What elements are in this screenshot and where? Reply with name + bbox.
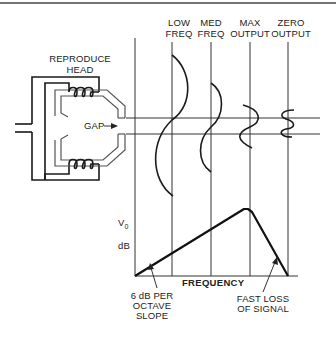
gap-label: GAP	[84, 120, 104, 131]
outer-wire-loop-bottom	[32, 132, 99, 180]
col-max-line2: OUTPUT	[230, 28, 270, 39]
col-zero-line1: ZERO	[278, 17, 305, 28]
head-label-line1: REPRODUCE	[49, 53, 111, 64]
col-low-line1: LOW	[168, 17, 190, 28]
annotation-right-line2: OF SIGNAL	[237, 303, 289, 314]
y-label-v0: V0	[118, 217, 128, 230]
reproduce-head: REPRODUCE HEAD GAP	[15, 53, 125, 180]
y-label-db: dB	[118, 240, 130, 251]
annotation-right-arrow-shaft	[263, 262, 275, 292]
frequency-response-chart: V0 dB FREQUENCY 6 dB PER OCTAVE SLOPE FA…	[118, 209, 298, 321]
core-lower-inner	[61, 134, 118, 160]
lower-coil-icon	[69, 160, 99, 169]
col-med-line1: MED	[200, 17, 221, 28]
annotation-left-line3: SLOPE	[136, 310, 168, 321]
column-headers: LOW FREQ MED FREQ MAX OUTPUT ZERO OUTPUT	[166, 17, 311, 39]
col-low-line2: FREQ	[166, 28, 193, 39]
gap-arrow-head-icon	[111, 123, 118, 129]
annotation-right-arrow-head-icon	[272, 257, 278, 265]
x-axis-label: FREQUENCY	[182, 277, 245, 288]
col-zero-line2: OUTPUT	[271, 28, 311, 39]
outer-wire-loop	[32, 77, 99, 124]
core-upper-inner	[61, 96, 118, 118]
head-label-line2: HEAD	[67, 64, 94, 75]
col-med-line2: FREQ	[198, 28, 225, 39]
col-max-line1: MAX	[240, 17, 261, 28]
annotation-left-arrow-shaft	[151, 268, 157, 288]
wave-max-output	[240, 105, 259, 148]
upper-coil-icon	[69, 88, 99, 97]
tape-head-frequency-response-diagram: REPRODUCE HEAD GAP	[0, 0, 336, 339]
